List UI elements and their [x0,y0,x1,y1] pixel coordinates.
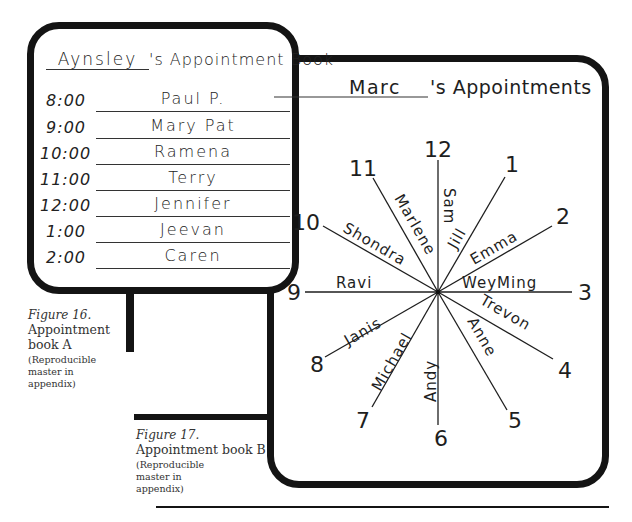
hour-11: 11 [349,156,377,181]
clock-name-ravi: Ravi [336,274,372,292]
hour-7: 7 [356,408,370,433]
clock-name-emma: Emma [467,227,521,269]
hour-9: 9 [287,280,301,305]
hour-8: 8 [310,352,324,377]
clock-name-anne: Anne [464,314,501,360]
hour-4: 4 [558,358,572,383]
clock-name-sam: Sam [440,188,458,224]
hour-10: 10 [292,210,320,235]
clock-name-andy: Andy [422,360,440,402]
clock-diagram: Marc 's Appointments 12 1 2 3 4 5 6 7 8 … [0,0,632,522]
book-b-title-suffix: 's Appointments [430,76,592,98]
clock-name-janis: Janis [340,314,385,350]
clock-name-jill: Jill [443,225,470,253]
hour-12: 12 [424,137,452,162]
clock-name-shondra: Shondra [340,219,409,269]
hour-2: 2 [556,204,570,229]
book-b-owner-name: Marc [349,76,401,98]
clock-name-weyming: WeyMing [462,274,537,292]
clock-name-michael: Michael [368,329,416,394]
hour-6: 6 [434,426,448,451]
hour-5: 5 [508,408,522,433]
hour-3: 3 [578,280,592,305]
hour-1: 1 [505,152,519,177]
